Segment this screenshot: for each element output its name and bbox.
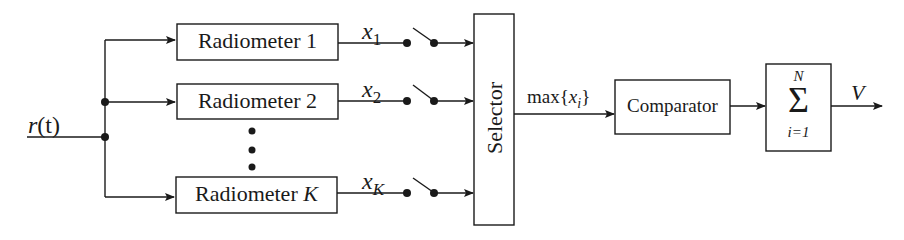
xk-var: x <box>362 168 373 194</box>
xk-sub: K <box>373 180 384 199</box>
max-label: max{xi} <box>527 86 590 112</box>
selector-label: Selector <box>482 68 506 168</box>
switch-k-blade <box>413 178 433 192</box>
ellipsis-dot-1 <box>249 128 256 135</box>
input-label-base: r <box>28 112 37 138</box>
sum-lower-limit: i=1 <box>766 124 831 141</box>
input-label-arg: (t) <box>37 112 60 138</box>
x2-label: x2 <box>362 76 381 108</box>
switch-2-blade <box>413 85 433 100</box>
junction-dot-upper <box>101 98 109 106</box>
xk-label: xK <box>362 168 384 200</box>
switch-2-contact-in <box>403 97 411 105</box>
radiometer-2-label: Radiometer 2 <box>177 88 338 114</box>
switch-k-contact-out <box>430 189 438 197</box>
max-suffix: } <box>581 86 590 107</box>
comparator-label: Comparator <box>615 95 730 117</box>
block-diagram-canvas <box>0 0 904 240</box>
switch-2-contact-out <box>430 97 438 105</box>
output-label: V <box>851 80 864 106</box>
x1-var: x <box>362 18 373 44</box>
x2-var: x <box>362 76 373 102</box>
switch-1-blade <box>413 28 433 42</box>
x2-sub: 2 <box>373 88 382 107</box>
max-prefix: max{ <box>527 86 569 107</box>
switch-1-contact-in <box>403 39 411 47</box>
sum-symbol: Σ <box>766 80 831 120</box>
switch-k-contact-in <box>403 189 411 197</box>
x1-label: x1 <box>362 18 381 50</box>
radiometer-k-label: Radiometer K <box>176 181 337 207</box>
radiometer-k-label-text: Radiometer <box>195 181 303 206</box>
ellipsis-dot-2 <box>249 147 256 154</box>
radiometer-k-label-italic: K <box>303 181 318 206</box>
junction-dot-lower <box>101 133 109 141</box>
switch-1-contact-out <box>430 39 438 47</box>
ellipsis-dot-3 <box>249 164 256 171</box>
radiometer-1-label: Radiometer 1 <box>177 28 338 54</box>
x1-sub: 1 <box>373 30 382 49</box>
input-label: r(t) <box>28 112 60 139</box>
